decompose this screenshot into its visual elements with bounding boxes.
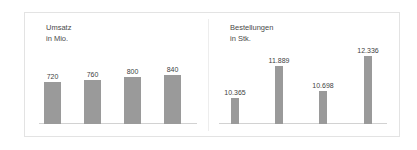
bar	[164, 75, 181, 124]
bar-value-label: 10.365	[224, 89, 245, 96]
plot-area-bestellungen: 10.365 11.889 10.698 12.336	[209, 11, 401, 136]
chart-frame: Umsatz in Mio. 720 760 800 840 Bestellun…	[24, 12, 400, 137]
bar-value-label: 760	[87, 71, 99, 78]
chart-panel-bestellungen: Bestellungen in Stk. 10.365 11.889 10.69…	[209, 13, 401, 136]
bar	[44, 82, 61, 124]
bar-value-label: 11.889	[269, 57, 290, 64]
bar	[275, 66, 283, 124]
plot-area-umsatz: 720 760 800 840	[25, 11, 209, 136]
bar	[124, 77, 141, 124]
bar-value-label: 840	[167, 66, 179, 73]
bar-value-label: 12.336	[357, 47, 378, 54]
bar-value-label: 10.698	[312, 82, 333, 89]
bar	[231, 98, 239, 124]
bar	[84, 80, 101, 124]
axis-baseline-bestellungen	[219, 123, 387, 124]
bar-value-label: 800	[127, 68, 139, 75]
bar	[319, 91, 327, 124]
bar-value-label: 720	[47, 73, 59, 80]
chart-panel-umsatz: Umsatz in Mio. 720 760 800 840	[25, 13, 209, 136]
bar	[364, 56, 372, 124]
